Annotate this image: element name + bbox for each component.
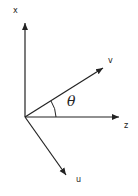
x-axis-label: x [13, 6, 18, 15]
v-vector-label: v [108, 56, 113, 65]
v-vector-arrow [25, 68, 103, 117]
vector-diagram: x v z u θ [0, 0, 138, 196]
u-vector-arrow [25, 117, 66, 175]
u-vector-label: u [76, 175, 81, 184]
angle-arc [51, 101, 56, 117]
theta-angle-label: θ [67, 93, 75, 109]
z-axis-label: z [124, 121, 128, 130]
